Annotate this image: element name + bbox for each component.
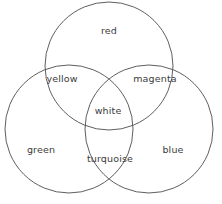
label-green: green — [27, 145, 55, 155]
label-white: white — [95, 106, 122, 116]
label-red: red — [101, 26, 117, 36]
label-turquoise: turquoise — [87, 154, 133, 164]
label-magenta: magenta — [133, 74, 177, 84]
label-yellow: yellow — [46, 74, 77, 84]
label-blue: blue — [162, 145, 183, 155]
venn-diagram: red yellow magenta white green blue turq… — [0, 0, 222, 204]
